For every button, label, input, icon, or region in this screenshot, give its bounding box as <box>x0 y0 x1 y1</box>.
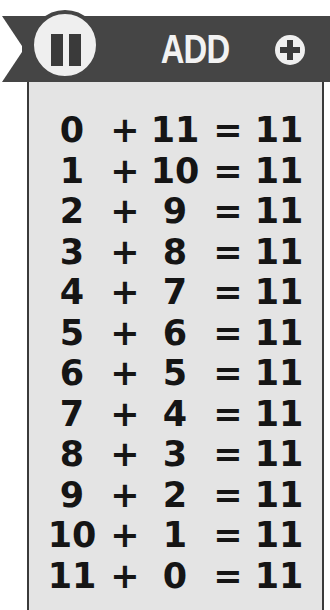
equation-row: 4 + 7 = 11 <box>27 272 324 313</box>
page-title: ADD <box>158 25 232 73</box>
addend-a: 7 <box>42 394 102 434</box>
number-badge-eleven <box>30 10 100 80</box>
equation-row: 5 + 6 = 11 <box>27 313 324 354</box>
equation-row: 7 + 4 = 11 <box>27 394 324 435</box>
addend-b: 8 <box>145 232 205 272</box>
addend-a: 11 <box>42 556 102 596</box>
equation-row: 10 + 1 = 11 <box>27 515 324 556</box>
badge-digit-one-right <box>69 34 81 66</box>
sum-result: 11 <box>249 191 309 231</box>
addend-b: 9 <box>145 191 205 231</box>
addend-b: 0 <box>145 556 205 596</box>
sum-result: 11 <box>249 394 309 434</box>
addend-b: 6 <box>145 313 205 353</box>
badge-digit-one-left <box>51 34 63 66</box>
equation-row: 3 + 8 = 11 <box>27 232 324 273</box>
addend-b: 7 <box>145 272 205 312</box>
equation-row: 0 + 11 = 11 <box>27 110 324 151</box>
equation-row: 8 + 3 = 11 <box>27 434 324 475</box>
sum-result: 11 <box>249 232 309 272</box>
addend-a: 0 <box>42 110 102 150</box>
addend-b: 3 <box>145 434 205 474</box>
addend-a: 8 <box>42 434 102 474</box>
addend-b: 10 <box>145 151 205 191</box>
addend-b: 4 <box>145 394 205 434</box>
addend-a: 3 <box>42 232 102 272</box>
addend-a: 9 <box>42 475 102 515</box>
sum-result: 11 <box>249 272 309 312</box>
sum-result: 11 <box>249 556 309 596</box>
sum-result: 11 <box>249 313 309 353</box>
addend-a: 10 <box>42 515 102 555</box>
addend-b: 5 <box>145 353 205 393</box>
addend-b: 1 <box>145 515 205 555</box>
sum-result: 11 <box>249 151 309 191</box>
equation-row: 2 + 9 = 11 <box>27 191 324 232</box>
addend-a: 1 <box>42 151 102 191</box>
sum-result: 11 <box>249 475 309 515</box>
equation-row: 6 + 5 = 11 <box>27 353 324 394</box>
addend-a: 2 <box>42 191 102 231</box>
equation-list: 0 + 11 = 11 1 + 10 = 11 2 + 9 = 11 3 + 8… <box>27 110 324 596</box>
sum-result: 11 <box>249 434 309 474</box>
addend-a: 5 <box>42 313 102 353</box>
sum-result: 11 <box>249 110 309 150</box>
addend-b: 11 <box>145 110 205 150</box>
sum-result: 11 <box>249 515 309 555</box>
plus-circle-icon <box>275 35 305 65</box>
addend-a: 4 <box>42 272 102 312</box>
equation-row: 11 + 0 = 11 <box>27 556 324 597</box>
equation-row: 1 + 10 = 11 <box>27 151 324 192</box>
banner-ribbon-tail <box>2 16 24 82</box>
equation-row: 9 + 2 = 11 <box>27 475 324 516</box>
sum-result: 11 <box>249 353 309 393</box>
addend-b: 2 <box>145 475 205 515</box>
addend-a: 6 <box>42 353 102 393</box>
